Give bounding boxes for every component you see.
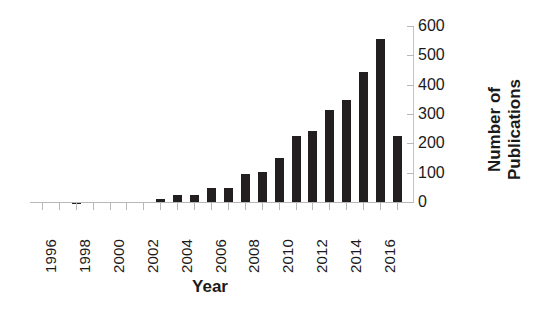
- bar-slot: [102, 22, 119, 203]
- x-tick-slot: [220, 203, 237, 210]
- bar-slot: [119, 22, 136, 203]
- y-tick-mark: [407, 173, 414, 174]
- bar-slot: [135, 22, 152, 203]
- x-tick-mark: [245, 203, 246, 210]
- bars-layer: [30, 22, 410, 203]
- x-tick-mark: [177, 203, 178, 210]
- x-tick-mark: [296, 203, 297, 210]
- x-tick-mark: [110, 203, 111, 210]
- x-label-slot: 2000: [102, 212, 119, 264]
- x-label-slot: [355, 212, 372, 264]
- x-tick-mark: [380, 203, 381, 210]
- x-tick-mark: [262, 203, 263, 210]
- x-label-slot: 2008: [237, 212, 254, 264]
- bar[interactable]: [393, 136, 402, 203]
- x-tick-slot: [203, 203, 220, 210]
- x-label-slot: [288, 212, 305, 264]
- x-tick-slot: [169, 203, 186, 210]
- x-label-slot: 2012: [305, 212, 322, 264]
- x-tick-slot: [254, 203, 271, 210]
- x-label-slot: 2016: [372, 212, 389, 264]
- bar-slot: [152, 22, 169, 203]
- x-tick-slot: [68, 203, 85, 210]
- x-label-slot: 1998: [68, 212, 85, 264]
- bar-slot: [220, 22, 237, 203]
- x-tick-mark: [363, 203, 364, 210]
- x-label-slot: 2010: [271, 212, 288, 264]
- publications-bar-chart: 1996199820002002200420062008201020122014…: [0, 0, 553, 317]
- x-tick-mark: [279, 203, 280, 210]
- x-tick-slot: [372, 203, 389, 210]
- bar-slot: [288, 22, 305, 203]
- x-tick-slot: [34, 203, 51, 210]
- y-tick-mark: [407, 26, 414, 27]
- x-label-slot: [186, 212, 203, 264]
- x-tick-mark: [59, 203, 60, 210]
- x-tick-slot: [288, 203, 305, 210]
- y-tick-mark: [407, 85, 414, 86]
- bar-slot: [321, 22, 338, 203]
- bar-slot: [51, 22, 68, 203]
- x-tick-mark: [126, 203, 127, 210]
- bar[interactable]: [359, 72, 368, 203]
- x-label-slot: [254, 212, 271, 264]
- x-tick-mark: [211, 203, 212, 210]
- y-tick-label: 300: [418, 106, 445, 122]
- bar[interactable]: [308, 131, 317, 203]
- bar-slot: [186, 22, 203, 203]
- y-tick-label: 100: [418, 165, 445, 181]
- y-axis-title: Number of Publications: [455, 0, 553, 260]
- x-tick-mark: [228, 203, 229, 210]
- y-tick-mark: [407, 114, 414, 115]
- plot-area: [30, 22, 410, 203]
- x-tick-slot: [135, 203, 152, 210]
- bar[interactable]: [342, 100, 351, 203]
- bar-slot: [338, 22, 355, 203]
- bar[interactable]: [376, 39, 385, 203]
- y-axis-title-line-2: Publications: [505, 79, 524, 180]
- x-label-slot: 2014: [338, 212, 355, 264]
- bar[interactable]: [207, 188, 216, 203]
- x-tick-slot: [271, 203, 288, 210]
- x-tick-slot: [119, 203, 136, 210]
- bar-slot: [372, 22, 389, 203]
- y-tick-label: 0: [418, 194, 427, 210]
- x-label-slot: [119, 212, 136, 264]
- bar-slot: [305, 22, 322, 203]
- bar-slot: [68, 22, 85, 203]
- x-tick-mark: [397, 203, 398, 210]
- x-tick-slot: [338, 203, 355, 210]
- bar[interactable]: [241, 174, 250, 203]
- x-tick-mark: [143, 203, 144, 210]
- x-axis-title: Year: [0, 277, 420, 297]
- bar[interactable]: [292, 136, 301, 203]
- x-tick-slot: [85, 203, 102, 210]
- x-label-slot: 2006: [203, 212, 220, 264]
- bar[interactable]: [325, 110, 334, 203]
- x-label-slot: [152, 212, 169, 264]
- x-tick-slot: [51, 203, 68, 210]
- bar[interactable]: [224, 188, 233, 203]
- y-tick-label: 500: [418, 47, 445, 63]
- bar-slot: [271, 22, 288, 203]
- bar-slot: [254, 22, 271, 203]
- x-label-slot: 2002: [135, 212, 152, 264]
- y-tick-label: 400: [418, 77, 445, 93]
- x-tick-mark: [76, 203, 77, 210]
- x-axis-tick-labels: 1996199820002002200420062008201020122014…: [30, 212, 410, 264]
- x-label-slot: [321, 212, 338, 264]
- y-tick-label: 200: [418, 135, 445, 151]
- x-tick-mark: [329, 203, 330, 210]
- x-label-slot: [85, 212, 102, 264]
- bar-slot: [355, 22, 372, 203]
- x-tick-mark: [42, 203, 43, 210]
- y-axis-title-line-1: Number of: [485, 88, 504, 173]
- x-label-slot: 1996: [34, 212, 51, 264]
- bar[interactable]: [258, 172, 267, 203]
- bar[interactable]: [275, 158, 284, 203]
- x-tick-slot: [237, 203, 254, 210]
- y-tick-mark: [407, 143, 414, 144]
- x-tick-slot: [305, 203, 322, 210]
- y-tick-label: 600: [418, 18, 445, 34]
- x-tick-mark: [194, 203, 195, 210]
